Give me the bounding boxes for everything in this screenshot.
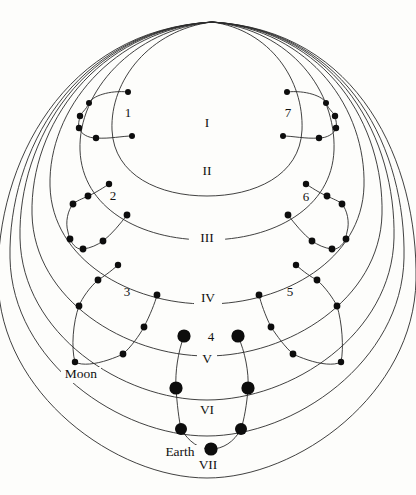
chain-4-dot-2	[231, 329, 244, 342]
chain-3-dot-5	[141, 324, 148, 331]
epicycle-6: 6	[303, 189, 310, 204]
chain-7-dot-5	[333, 125, 339, 131]
chain-2-dot-4	[124, 212, 131, 219]
orbit-VI: VI	[200, 402, 215, 417]
orbit-diagram-svg: IIIIIIIVVVIVII1234567MoonEarth	[0, 0, 416, 495]
chain-2-dot-2	[85, 193, 92, 200]
chain-4-dot-7	[204, 442, 217, 455]
orbit-I: I	[205, 115, 210, 130]
chain-4-dot-5	[175, 423, 187, 435]
chain-1-dot-4	[77, 113, 83, 119]
epicycle-7: 7	[285, 105, 292, 120]
chain-6-dot-7	[309, 238, 316, 245]
chain-7-dot-2	[323, 100, 329, 106]
chain-5-dot-1	[293, 262, 299, 268]
chain-5-dot-7	[290, 351, 297, 358]
chain-3-dot-1	[115, 262, 121, 268]
chain-1-dot-3	[129, 133, 135, 139]
chain-5-dot-5	[268, 324, 275, 331]
orbit-III: III	[200, 230, 214, 245]
chain-5-dot-3	[256, 292, 263, 299]
epicycle-1: 1	[125, 105, 132, 120]
chain-5	[256, 262, 345, 365]
chain-1-dot-6	[93, 135, 99, 141]
orbit-V: V	[202, 351, 212, 366]
chain-2-path	[67, 184, 127, 249]
chain-6-dot-3	[339, 201, 346, 208]
chain-3-dot-2	[95, 277, 102, 284]
epicycle-chains-group	[67, 89, 350, 456]
chain-4	[169, 329, 254, 455]
orbit-diagram-canvas: IIIIIIIVVVIVII1234567MoonEarth	[0, 0, 416, 495]
chain-5-path	[259, 265, 342, 364]
chain-6-dot-5	[343, 236, 350, 243]
chain-5-dot-6	[338, 359, 344, 365]
chain-2-dot-5	[67, 236, 74, 243]
chain-3-dot-3	[154, 292, 161, 299]
epicycle-5: 5	[287, 284, 294, 299]
epicycle-4: 4	[208, 329, 215, 344]
chain-4-dot-1	[177, 329, 190, 342]
chain-1-dot-1	[125, 89, 131, 95]
chain-2-dot-6	[80, 246, 87, 253]
chain-6-path	[288, 184, 348, 249]
orbit-IV: IV	[201, 290, 215, 305]
chain-6-dot-1	[303, 181, 309, 187]
chain-5-dot-4	[334, 303, 341, 310]
chain-4-dot-4	[241, 381, 254, 394]
chain-2-dot-1	[106, 181, 112, 187]
chain-5-dot-2	[314, 277, 321, 284]
label-earth: Earth	[165, 444, 194, 459]
chain-6-dot-2	[324, 193, 331, 200]
chain-6-dot-6	[329, 246, 336, 253]
label-moon: Moon	[65, 366, 98, 381]
chain-1-dot-2	[86, 100, 92, 106]
chain-7-dot-6	[316, 135, 322, 141]
chain-4-dot-3	[169, 381, 182, 394]
diagram-labels-group: IIIIIIIVVVIVII1234567MoonEarth	[65, 105, 310, 472]
epicycle-2: 2	[110, 188, 117, 203]
chain-3-path	[73, 265, 157, 364]
chain-1-dot-5	[76, 125, 82, 131]
chain-4-dot-6	[235, 423, 247, 435]
chain-7-dot-1	[284, 89, 290, 95]
chain-7-dot-4	[332, 113, 338, 119]
chain-2-dot-3	[70, 201, 77, 208]
chain-3-dot-4	[76, 303, 83, 310]
epicycle-3: 3	[124, 284, 131, 299]
chain-2	[67, 181, 131, 253]
chain-6-dot-4	[285, 212, 292, 219]
chain-7-dot-3	[280, 133, 286, 139]
chain-3-dot-6	[72, 359, 78, 365]
chain-3-dot-7	[120, 351, 127, 358]
chain-2-dot-7	[100, 238, 107, 245]
orbit-II: II	[203, 163, 212, 178]
orbit-VII: VII	[199, 457, 218, 472]
